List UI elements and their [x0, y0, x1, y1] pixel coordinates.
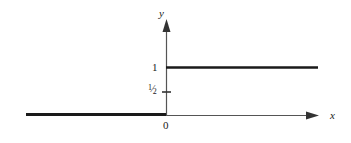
y-tick-label-one: 1: [152, 62, 158, 73]
x-axis-arrowhead: [306, 112, 319, 120]
plot-canvas: [0, 0, 351, 143]
fraction-numerator: 1: [148, 83, 152, 92]
y-axis-arrowhead: [163, 19, 171, 32]
y-axis-label: y: [159, 8, 164, 19]
x-axis-label: x: [330, 110, 335, 121]
origin-label: 0: [163, 120, 169, 131]
y-tick-label-half: 1⁄2: [148, 83, 158, 94]
fraction-denominator: 2: [153, 87, 157, 96]
step-function-figure: y x 1 1⁄2 0: [0, 0, 351, 143]
